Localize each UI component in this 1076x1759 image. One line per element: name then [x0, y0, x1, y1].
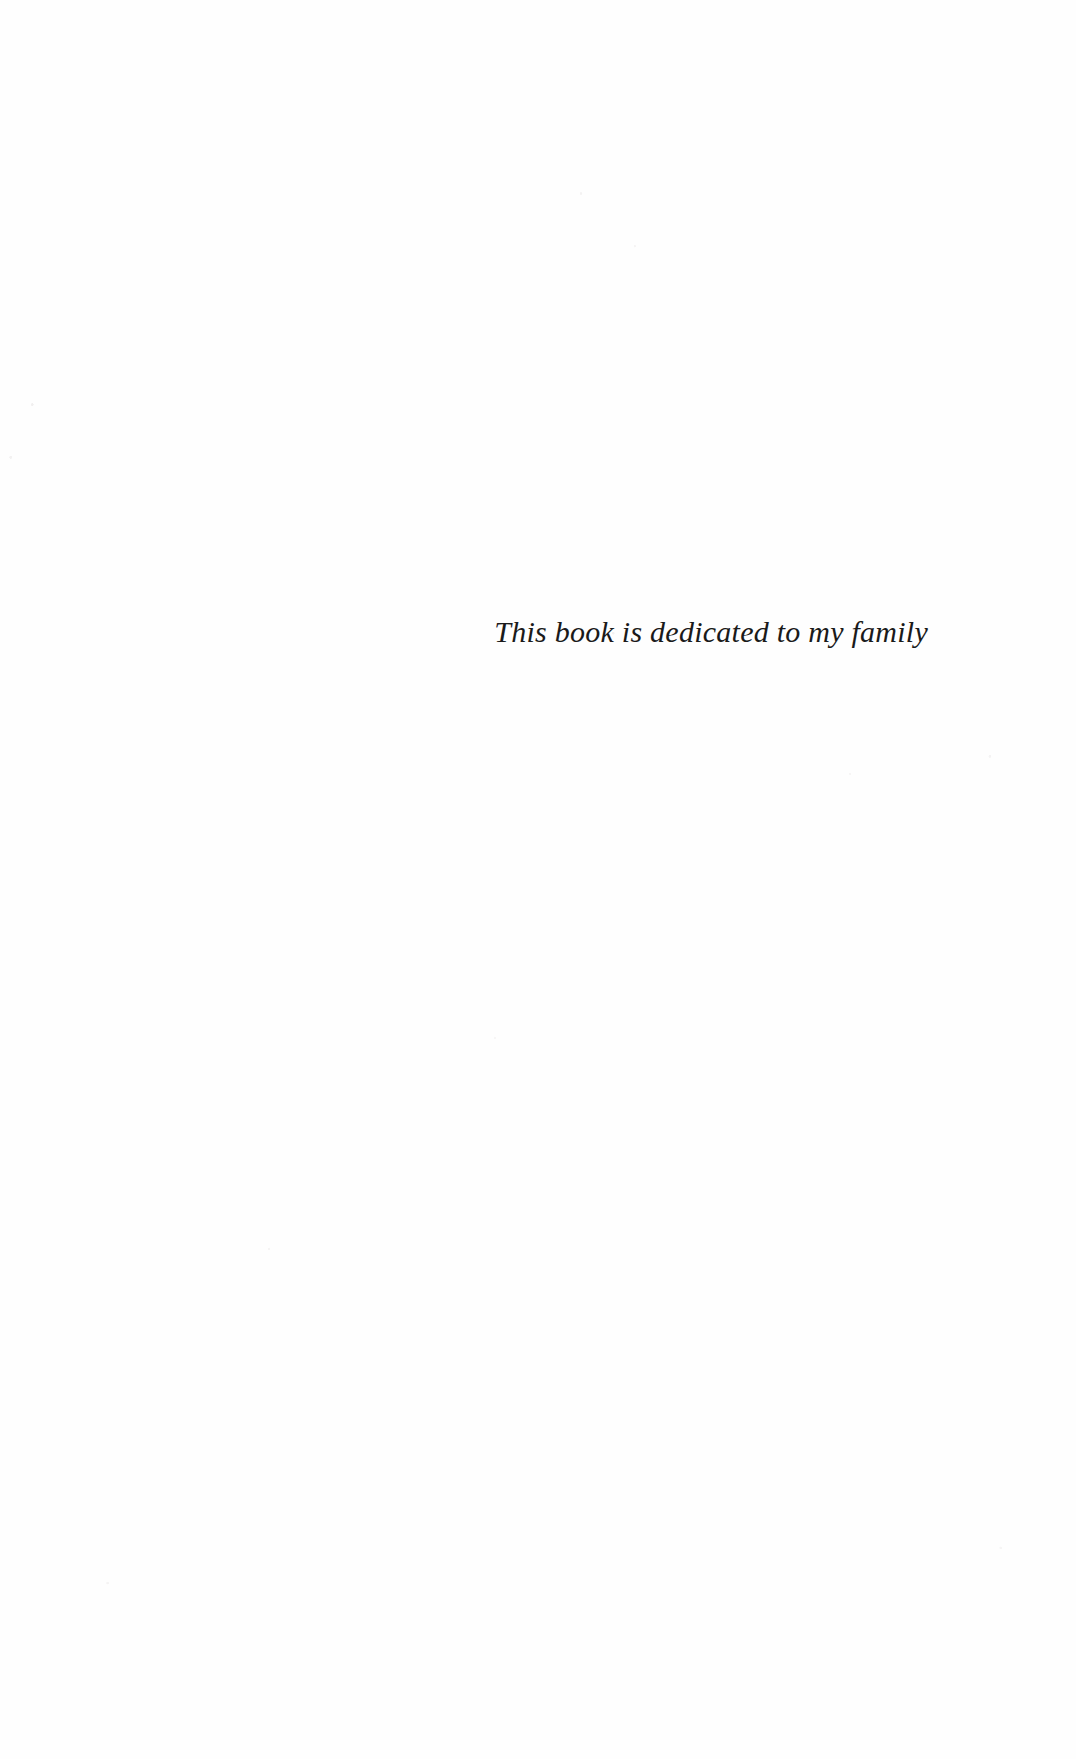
paper-texture: [0, 0, 1076, 1759]
dedication-text: This book is dedicated to my family: [494, 612, 928, 652]
document-page: This book is dedicated to my family: [0, 0, 1076, 1759]
dedication-block: This book is dedicated to my family: [0, 612, 928, 652]
